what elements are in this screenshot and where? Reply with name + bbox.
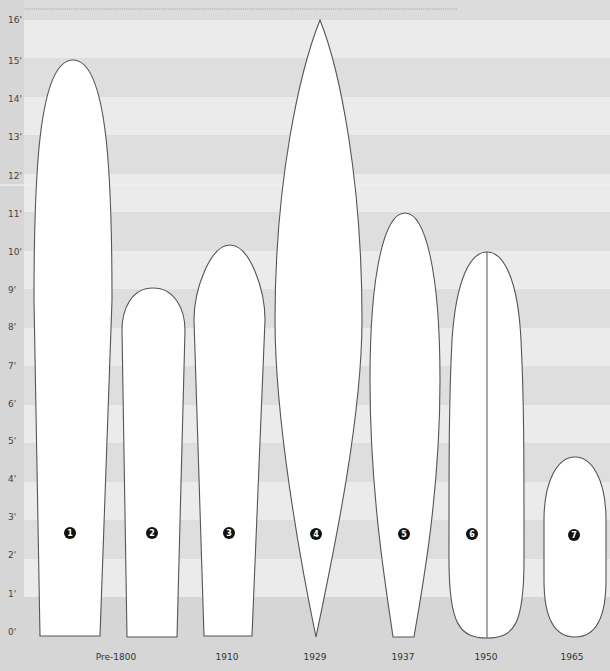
board-number-marker: 7 — [568, 529, 580, 541]
svg-text:4: 4 — [313, 530, 319, 539]
surfboard-1 — [34, 60, 112, 636]
board-number-marker: 3 — [223, 527, 235, 539]
y-axis-label: 12' — [8, 171, 26, 181]
x-axis-era-label: 1965 — [561, 652, 584, 662]
surfboard-7 — [544, 457, 606, 637]
y-axis-label: 16' — [8, 15, 26, 25]
board-number-marker: 6 — [466, 528, 478, 540]
x-axis-era-label: 1929 — [304, 652, 327, 662]
y-axis-label: 5' — [8, 436, 26, 446]
x-axis-era-label: Pre-1800 — [96, 652, 136, 662]
board-number-marker: 2 — [146, 527, 158, 539]
x-axis-era-label: 1910 — [216, 652, 239, 662]
surfboard-2 — [122, 288, 185, 637]
y-axis-label: 9' — [8, 285, 26, 295]
svg-text:7: 7 — [571, 531, 577, 540]
svg-text:2: 2 — [149, 529, 155, 538]
y-axis-label: 10' — [8, 247, 26, 257]
y-axis-label: 11' — [8, 209, 26, 219]
svg-text:1: 1 — [67, 529, 73, 538]
board-number-marker: 5 — [398, 528, 410, 540]
x-axis-era-label: 1937 — [392, 652, 415, 662]
y-axis-label: 8' — [8, 322, 26, 332]
x-axis-era-label: 1950 — [475, 652, 498, 662]
y-axis-label: 1' — [8, 589, 26, 599]
y-axis-label: 2' — [8, 550, 26, 560]
surfboard-length-diagram: 1234567 16'15'14'13'12'11'10'9'8'7'6'5'4… — [0, 0, 610, 671]
y-axis-label: 4' — [8, 474, 26, 484]
board-number-marker: 4 — [310, 528, 322, 540]
y-axis-label: 7' — [8, 361, 26, 371]
board-number-marker: 1 — [64, 527, 76, 539]
diagram-canvas: 1234567 — [0, 0, 610, 671]
surfboard-3 — [194, 245, 265, 636]
svg-text:6: 6 — [469, 530, 475, 539]
y-axis-label: 15' — [8, 56, 26, 66]
svg-text:3: 3 — [226, 529, 232, 538]
y-axis-label: 6' — [8, 399, 26, 409]
y-axis-label: 14' — [8, 94, 26, 104]
y-axis-label: 0' — [8, 627, 26, 637]
y-axis-label: 3' — [8, 512, 26, 522]
svg-text:5: 5 — [401, 530, 407, 539]
y-axis-label: 13' — [8, 132, 26, 142]
